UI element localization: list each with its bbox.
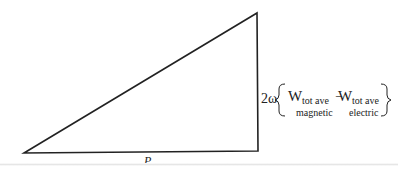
term2-main: W	[338, 88, 352, 105]
base-label: P	[144, 154, 151, 169]
page-divider	[0, 163, 398, 166]
diagram-canvas: 2ω W tot ave magnetic − W tot ave electr…	[0, 0, 398, 176]
term1-sup: tot ave	[302, 95, 329, 106]
term2-sub: electric	[349, 107, 378, 118]
term1-main: W	[288, 88, 302, 105]
right-brace	[381, 84, 391, 116]
coefficient-label: 2ω	[261, 91, 277, 107]
triangle-outline	[24, 13, 258, 153]
term1-sub: magnetic	[296, 107, 333, 118]
term2-sup: tot ave	[352, 95, 379, 106]
